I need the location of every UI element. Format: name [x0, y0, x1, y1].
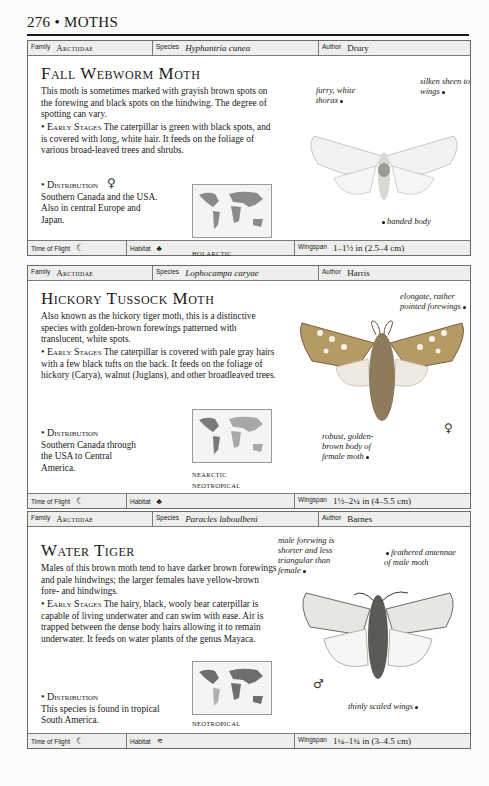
map-region-label: NEARCTIC — [192, 471, 227, 478]
family-value: Arctiidae — [56, 514, 93, 524]
annotation-body: robust, golden-brown body of female moth — [322, 431, 378, 461]
early-stages: • Early Stages The hairy, black, wooly b… — [41, 598, 277, 645]
distribution: • DistributionSouthern Canada and the US… — [41, 179, 161, 226]
time-of-flight-label: Time of Flight — [31, 245, 70, 252]
habitat-cell: Habitat♣ — [127, 494, 295, 508]
separator: • — [54, 14, 60, 30]
author-label: Author — [322, 43, 341, 50]
author-label: Author — [322, 268, 341, 275]
hickory-tussock-moth-image — [296, 311, 468, 431]
annotation-antennae: feathered antennae of male moth — [384, 547, 464, 567]
early-stages-heading: • Early Stages — [41, 346, 102, 357]
common-name: Hickory Tussock Moth — [41, 289, 214, 309]
author-value: Barnes — [347, 514, 372, 524]
annotation-wings: silken sheen to wings — [420, 76, 478, 96]
wingspan-cell: Wingspan1½–2¼ in (4–5.5 cm) — [295, 494, 470, 508]
early-stages: • Early Stages The caterpillar is green … — [41, 121, 277, 157]
female-symbol-icon: ♀ — [444, 421, 453, 435]
common-name: Water Tiger — [41, 541, 135, 561]
wingspan-label: Wingspan — [298, 243, 327, 250]
species-entry-hickory-tussock: FamilyArctiidae SpeciesLophocampa caryae… — [27, 265, 471, 509]
world-map — [192, 409, 272, 463]
species-cell: SpeciesLophocampa caryae — [153, 266, 319, 280]
author-value: Harris — [347, 268, 370, 278]
entry-body: Hickory Tussock Moth Also known as the h… — [28, 281, 470, 493]
male-symbol-icon: ♂ — [313, 677, 324, 691]
fall-webworm-moth-image — [304, 126, 464, 211]
page-header: 276 • MOTHS — [27, 14, 469, 36]
time-of-flight-cell: Time of Flight☾ — [28, 734, 127, 748]
species-entry-fall-webworm: FamilyArctiidae SpeciesHyphantria cunea … — [27, 40, 471, 256]
author-cell: AuthorHarris — [319, 266, 470, 280]
time-of-flight-cell: Time of Flight☾ — [28, 494, 127, 508]
header-row: FamilyArctiidae SpeciesHyphantria cunea … — [28, 41, 470, 56]
crescent-moon-icon: ☾ — [76, 243, 84, 253]
family-value: Arctiidae — [56, 268, 93, 278]
wingspan-value: 1–1½ in (2.5–4 cm) — [333, 243, 404, 253]
author-cell: AuthorDrury — [319, 41, 470, 55]
map-region-label: NEOTROPICAL — [192, 482, 240, 489]
species-cell: SpeciesHyphantria cunea — [153, 41, 319, 55]
habitat-label: Habitat — [130, 738, 151, 745]
distribution: • DistributionSouthern Canada through th… — [41, 427, 141, 474]
species-value: Hyphantria cunea — [185, 43, 250, 53]
species-label: Species — [156, 514, 179, 521]
family-cell: FamilyArctiidae — [28, 266, 153, 280]
description: This moth is sometimes marked with grayi… — [41, 86, 277, 121]
section-title: MOTHS — [64, 14, 118, 30]
early-stages: • Early Stages The caterpillar is covere… — [41, 346, 277, 382]
tree-icon: ♣ — [157, 497, 162, 506]
entry-body: Fall Webworm Moth This moth is sometimes… — [28, 56, 470, 240]
family-value: Arctiidae — [56, 43, 93, 53]
wingspan-label: Wingspan — [298, 736, 327, 743]
wetland-icon: ≋ — [157, 737, 163, 745]
footer-row: Time of Flight☾ Habitat≋ Wingspan1¼–1¾ i… — [28, 733, 470, 748]
distribution-text: This species is found in tropical South … — [41, 704, 160, 726]
crescent-moon-icon: ☾ — [76, 736, 84, 746]
distribution-heading: • Distribution — [41, 179, 98, 190]
page-number: 276 — [27, 14, 50, 30]
entry-body: Water Tiger Males of this brown moth ten… — [28, 527, 470, 733]
annotation-forewing: male forewing is shorter and less triang… — [278, 535, 340, 575]
distribution-text: Southern Canada through the USA to Centr… — [41, 440, 136, 473]
description: Males of this brown moth tend to have da… — [41, 563, 277, 598]
habitat-cell: Habitat≋ — [127, 734, 295, 748]
family-label: Family — [31, 268, 50, 275]
wingspan-cell: Wingspan1–1½ in (2.5–4 cm) — [295, 241, 470, 255]
distribution-heading: • Distribution — [41, 427, 98, 438]
water-tiger-moth-image — [298, 585, 458, 689]
habitat-label: Habitat — [130, 498, 151, 505]
early-stages-heading: • Early Stages — [41, 121, 102, 132]
distribution-text: Southern Canada and the USA. Also in cen… — [41, 192, 157, 225]
time-of-flight-label: Time of Flight — [31, 498, 70, 505]
time-of-flight-cell: Time of Flight☾ — [28, 241, 127, 255]
annotation-body: banded body — [380, 216, 431, 226]
author-cell: AuthorBarnes — [319, 512, 470, 526]
world-map — [192, 661, 272, 715]
family-cell: FamilyArctiidae — [28, 512, 153, 526]
annotation-forewings: elongate, rather pointed forewings — [400, 291, 470, 311]
family-label: Family — [31, 43, 50, 50]
distribution: • DistributionThis species is found in t… — [41, 691, 161, 727]
map-region-label: HOLARCTIC — [192, 250, 232, 257]
footer-row: Time of Flight☾ Habitat♣ Wingspan1½–2¼ i… — [28, 493, 470, 508]
annotation-wings: thinly scaled wings — [348, 701, 420, 711]
species-label: Species — [156, 268, 179, 275]
species-cell: SpeciesParacles laboulbeni — [153, 512, 319, 526]
wingspan-cell: Wingspan1¼–1¾ in (3–4.5 cm) — [295, 734, 470, 748]
tree-icon: ♣ — [157, 244, 162, 253]
world-map — [192, 184, 272, 238]
common-name: Fall Webworm Moth — [41, 64, 200, 84]
species-value: Paracles laboulbeni — [185, 514, 258, 524]
author-value: Drury — [347, 43, 369, 53]
species-entry-water-tiger: FamilyArctiidae SpeciesParacles laboulbe… — [27, 511, 471, 749]
species-value: Lophocampa caryae — [185, 268, 259, 278]
family-label: Family — [31, 514, 50, 521]
habitat-label: Habitat — [130, 245, 151, 252]
early-stages-heading: • Early Stages — [41, 598, 102, 609]
species-label: Species — [156, 43, 179, 50]
female-symbol-icon: ♀ — [107, 176, 116, 190]
description: Also known as the hickory tiger moth, th… — [41, 311, 277, 346]
distribution-heading: • Distribution — [41, 691, 98, 702]
family-cell: FamilyArctiidae — [28, 41, 153, 55]
